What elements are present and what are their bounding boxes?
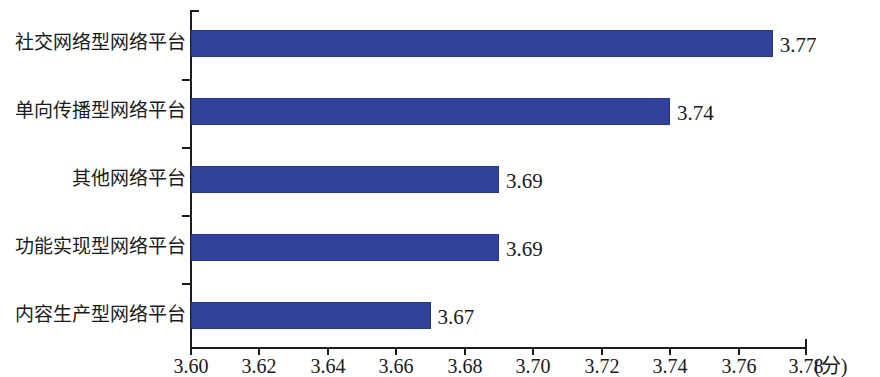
data-value-label: 3.67 <box>438 307 475 328</box>
value-axis-line <box>190 347 807 349</box>
value-axis-tick-label: 3.70 <box>516 356 551 376</box>
value-axis-tick <box>669 347 671 355</box>
value-axis-tick <box>258 347 260 355</box>
value-axis-tick-label: 3.60 <box>174 356 209 376</box>
value-axis-tick <box>532 347 534 355</box>
value-axis-tick-label: 3.62 <box>242 356 277 376</box>
value-axis-tick-label: 3.76 <box>722 356 757 376</box>
value-axis-unit-label: (分) <box>814 356 847 376</box>
data-value-label: 3.77 <box>780 35 817 56</box>
data-value-label: 3.69 <box>506 239 543 260</box>
value-axis-tick-label: 3.68 <box>448 356 483 376</box>
bar-series-item <box>191 234 499 261</box>
value-axis-tick <box>601 347 603 355</box>
bar-series-item <box>191 302 431 329</box>
category-axis-tick <box>182 147 191 149</box>
value-axis-tick <box>738 347 740 355</box>
value-axis-tick-label: 3.72 <box>585 356 620 376</box>
value-axis-tick-label: 3.64 <box>311 356 346 376</box>
data-value-label: 3.74 <box>677 103 714 124</box>
value-axis-tick <box>395 347 397 355</box>
category-label: 内容生产型网络平台 <box>0 305 186 324</box>
category-label: 单向传播型网络平台 <box>0 101 186 120</box>
bar-series-item <box>191 98 670 125</box>
bar-series-item <box>191 30 773 57</box>
category-label: 功能实现型网络平台 <box>0 237 186 256</box>
data-value-label: 3.69 <box>506 171 543 192</box>
value-axis-tick <box>464 347 466 355</box>
category-axis-tick <box>182 283 191 285</box>
category-axis-tick <box>182 215 191 217</box>
value-axis-tick <box>190 347 192 355</box>
category-axis-top-cap <box>190 10 199 12</box>
value-axis-tick-label: 3.66 <box>379 356 414 376</box>
value-axis-tick-label: 3.74 <box>653 356 688 376</box>
value-axis-tick <box>327 347 329 355</box>
category-label: 其他网络平台 <box>0 169 186 188</box>
category-label: 社交网络型网络平台 <box>0 33 186 52</box>
bar-series-item <box>191 166 499 193</box>
value-axis-tick <box>805 347 807 355</box>
category-axis-tick <box>182 79 191 81</box>
